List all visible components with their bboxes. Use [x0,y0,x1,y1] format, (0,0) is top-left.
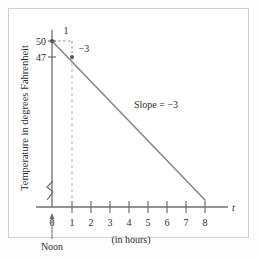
figure-container: 50 47 0 1 2 3 4 5 6 7 8 t Noon (in hours… [0,0,258,260]
rise-label: −3 [79,43,90,54]
x-tick-label-5: 5 [146,217,151,228]
x-tick-label-2: 2 [89,217,94,228]
slope-annotation: Slope = −3 [134,99,178,110]
noon-arrow-head-icon [50,213,55,219]
x-tick-label-6: 6 [165,217,170,228]
x-tick-label-1: 1 [70,217,75,228]
data-point-1-47 [70,55,74,59]
x-tick-label-4: 4 [127,217,132,228]
x-tick-label-3: 3 [108,217,113,228]
noon-label: Noon [41,241,63,252]
y-tick-label-47: 47 [36,52,46,63]
data-point-0-50 [50,39,54,43]
y-tick-label-50: 50 [36,36,46,47]
temperature-line [52,41,205,200]
x-tick-label-8: 8 [203,217,208,228]
line-graph: 50 47 0 1 2 3 4 5 6 7 8 t Noon (in hours… [0,0,258,260]
x-axis-caption: (in hours) [111,234,150,246]
y-axis-title: Temperature in degrees Fahrenheit [19,45,30,191]
run-label: 1 [64,25,69,36]
x-axis-variable-label: t [232,202,235,213]
x-tick-label-7: 7 [184,217,189,228]
